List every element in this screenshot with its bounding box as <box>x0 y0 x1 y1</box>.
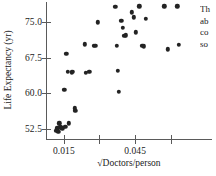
data-point <box>62 88 66 92</box>
data-point <box>64 52 68 56</box>
side-text-line: ab <box>200 16 216 28</box>
x-tick <box>171 135 172 144</box>
data-point <box>96 20 100 24</box>
side-text-line: Th <box>200 4 216 16</box>
y-tick-label-group: 52.560.067.575.0 <box>0 0 42 140</box>
data-point <box>121 25 125 29</box>
data-point <box>177 42 181 46</box>
y-tick-label: 75.0 <box>25 17 42 27</box>
data-point <box>162 4 166 8</box>
y-tick <box>42 58 51 59</box>
plot-area <box>46 0 212 140</box>
x-tick <box>99 135 100 144</box>
data-point <box>117 90 121 94</box>
data-point <box>114 43 118 47</box>
y-tick <box>42 93 51 94</box>
data-point <box>113 5 117 9</box>
data-point <box>93 43 97 47</box>
data-point <box>115 69 119 73</box>
data-point <box>71 70 75 74</box>
y-tick-label: 67.5 <box>25 53 42 63</box>
x-tick <box>135 135 136 144</box>
data-point <box>124 33 128 37</box>
data-point <box>137 4 141 8</box>
y-tick <box>42 22 51 23</box>
data-point <box>143 16 147 20</box>
x-axis-line <box>46 139 212 140</box>
y-tick-label: 60.0 <box>25 88 42 98</box>
data-point <box>175 4 179 8</box>
data-point <box>56 130 60 134</box>
y-tick <box>42 129 51 130</box>
data-point <box>73 108 77 112</box>
data-point <box>142 44 146 48</box>
x-tick-label: 0.015 <box>53 146 75 156</box>
data-point <box>166 47 170 51</box>
data-point <box>132 15 136 19</box>
data-point <box>87 70 91 74</box>
data-point <box>119 18 123 22</box>
x-axis-title: √Doctors/person <box>46 158 212 168</box>
data-point <box>67 121 71 125</box>
data-point <box>63 125 67 129</box>
x-tick <box>64 135 65 144</box>
x-tick-label: 0.045 <box>124 146 146 156</box>
side-body-text: Thabcoso <box>200 4 216 64</box>
side-text-line: co <box>200 27 216 39</box>
data-point <box>83 42 87 46</box>
y-tick-label: 52.5 <box>25 124 42 134</box>
data-point <box>133 30 137 34</box>
side-text-line: so <box>200 39 216 51</box>
scatter-plot-figure: Life Expectancy (yr) 52.560.067.575.0 0.… <box>0 0 216 176</box>
